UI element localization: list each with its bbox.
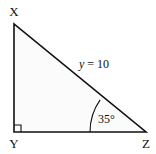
triangle-diagram: X Y Z y = 10 35° <box>0 0 156 154</box>
vertex-label-x: X <box>9 4 19 19</box>
vertex-label-y: Y <box>9 136 19 151</box>
angle-label-z: 35° <box>98 112 115 126</box>
vertex-label-z: Z <box>142 136 150 151</box>
hypotenuse-equals: = <box>84 57 97 71</box>
triangle-xyz <box>14 24 146 132</box>
hypotenuse-value: 10 <box>97 57 109 71</box>
hypotenuse-label: y = 10 <box>78 57 109 71</box>
